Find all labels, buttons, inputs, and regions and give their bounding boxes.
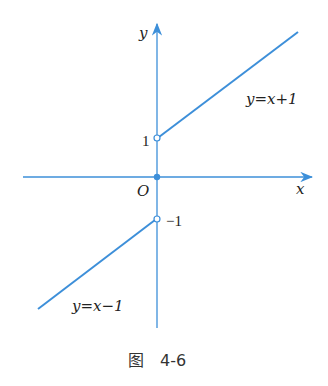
piecewise-graph: y x O 1 −1 y=x+1 y=x−1 图 4-6 [0,0,328,386]
line-lower [38,220,155,309]
tick-label-one: 1 [142,133,150,149]
figure-caption: 图 4-6 [128,351,186,370]
curve-label-lower: y=x−1 [71,297,124,315]
x-axis-label: x [296,180,305,198]
open-point-upper [154,135,160,141]
curve-label-upper: y=x+1 [245,90,298,108]
y-axis-label: y [138,24,148,42]
open-point-lower [154,216,160,222]
origin-label: O [137,182,149,200]
tick-label-neg-one: −1 [166,213,182,229]
line-upper [159,32,298,137]
origin-point [154,174,160,180]
